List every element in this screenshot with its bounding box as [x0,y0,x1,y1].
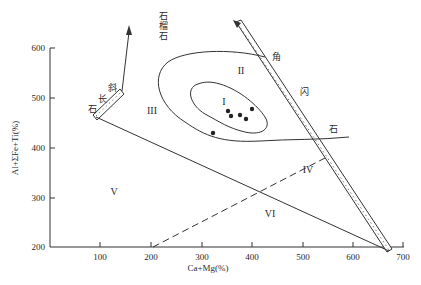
data-point [229,114,233,118]
y-tick-label: 400 [32,143,46,153]
data-point [244,117,248,121]
data-point [250,107,254,111]
y-axis-label: Al+ΣFe+Ti(%) [10,121,20,176]
arrow-head-icon [126,25,132,35]
svg-text:闪: 闪 [300,87,309,97]
diagram-canvas: 600 500 400 300 200 100 200 300 400 500 … [0,0,421,285]
region-label-III: III [147,105,157,116]
data-point [226,109,230,113]
x-tick-label: 500 [296,252,310,262]
x-tick-label: 600 [346,252,360,262]
field-boundary-I [191,82,268,133]
region-label-V: V [110,186,118,197]
data-point [211,131,215,135]
y-tick-label: 300 [32,193,46,203]
y-tick-label: 200 [32,242,46,252]
svg-text:石: 石 [329,124,338,134]
field-boundary-II [158,51,349,141]
garnet-arrow-line [122,32,129,91]
x-axis-label: Ca+Mg(%) [187,263,228,273]
region-label-II: II [238,65,245,76]
x-tick-label: 700 [396,252,410,262]
svg-text:石: 石 [159,31,168,41]
plagioclase-label: 斜 [108,82,117,93]
axes: 600 500 400 300 200 100 200 300 400 500 … [10,43,410,273]
x-tick-label: 400 [245,252,259,262]
region-label-IV: IV [303,164,314,175]
x-tick-label: 300 [195,252,209,262]
svg-text:榴: 榴 [159,20,168,31]
data-point [238,113,242,117]
dashed-divider [153,158,325,247]
garnet-label: 石 [159,11,168,21]
svg-text:长: 长 [98,93,107,104]
y-tick-label: 500 [32,93,46,103]
x-tick-label: 200 [144,252,158,262]
svg-text:石: 石 [88,104,97,114]
region-label-I: I [222,96,225,107]
x-tick-label: 100 [93,252,107,262]
amphibole-label: 角 [272,51,281,62]
y-tick-label: 600 [32,43,46,53]
region-label-VI: VI [265,208,276,219]
